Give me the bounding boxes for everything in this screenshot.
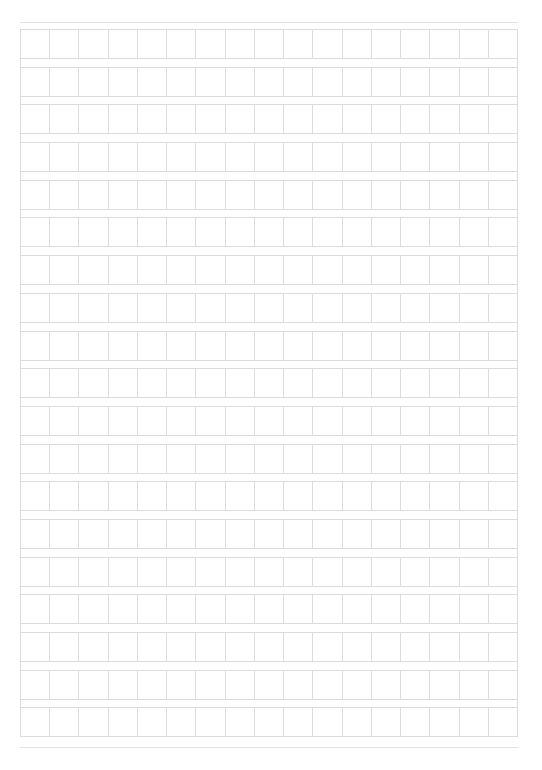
grid-cell	[109, 256, 138, 284]
grid-cell	[343, 369, 372, 397]
grid-cell	[401, 218, 430, 246]
grid-cell	[109, 520, 138, 548]
grid-cell	[138, 143, 167, 171]
grid-cell	[343, 633, 372, 661]
grid-cell	[226, 30, 255, 58]
grid-row	[20, 67, 518, 97]
grid-cell	[21, 332, 50, 360]
grid-cell	[226, 218, 255, 246]
grid-cell	[167, 332, 196, 360]
grid-cell	[489, 68, 517, 96]
grid-cell	[167, 708, 196, 736]
grid-cell	[138, 68, 167, 96]
grid-cell	[79, 369, 108, 397]
grid-cell	[372, 595, 401, 623]
grid-row	[20, 481, 518, 511]
grid-cell	[138, 595, 167, 623]
grid-row	[20, 594, 518, 624]
grid-cell	[372, 68, 401, 96]
grid-cell	[343, 671, 372, 699]
grid-cell	[430, 407, 459, 435]
grid-cell	[430, 181, 459, 209]
grid-cell	[138, 30, 167, 58]
grid-cell	[226, 482, 255, 510]
grid-cell	[313, 671, 342, 699]
grid-cell	[460, 520, 489, 548]
grid-cell	[255, 558, 284, 586]
row-gap	[20, 97, 518, 105]
grid-cell	[79, 407, 108, 435]
grid-cell	[21, 671, 50, 699]
grid-cell	[109, 633, 138, 661]
grid-cell	[489, 143, 517, 171]
grid-cell	[430, 143, 459, 171]
grid-cell	[167, 218, 196, 246]
grid-cell	[460, 445, 489, 473]
grid-cell	[79, 218, 108, 246]
grid-cell	[430, 68, 459, 96]
grid-cell	[401, 256, 430, 284]
grid-cell	[489, 30, 517, 58]
grid-cell	[196, 30, 225, 58]
grid-cell	[430, 294, 459, 322]
grid-cell	[343, 143, 372, 171]
grid-cell	[430, 445, 459, 473]
grid-cell	[372, 332, 401, 360]
grid-cell	[167, 407, 196, 435]
grid-cell	[79, 595, 108, 623]
grid-cell	[196, 332, 225, 360]
grid-cell	[196, 369, 225, 397]
grid-cell	[489, 294, 517, 322]
grid-cell	[284, 595, 313, 623]
grid-cell	[109, 558, 138, 586]
grid-cell	[21, 256, 50, 284]
grid-cell	[430, 558, 459, 586]
grid-cell	[138, 482, 167, 510]
grid-row	[20, 557, 518, 587]
grid-cell	[401, 143, 430, 171]
grid-cell	[79, 143, 108, 171]
grid-cell	[50, 633, 79, 661]
grid-cell	[372, 671, 401, 699]
grid-cell	[109, 445, 138, 473]
grid-cell	[284, 558, 313, 586]
grid-cell	[109, 332, 138, 360]
grid-cell	[50, 407, 79, 435]
grid-cell	[284, 256, 313, 284]
grid-cell	[167, 482, 196, 510]
grid-cell	[79, 30, 108, 58]
grid-cell	[255, 332, 284, 360]
grid-cell	[460, 68, 489, 96]
grid-cell	[343, 256, 372, 284]
grid-cell	[313, 633, 342, 661]
grid-cell	[284, 369, 313, 397]
grid-cell	[372, 520, 401, 548]
grid-cell	[255, 68, 284, 96]
grid-cell	[460, 105, 489, 133]
grid-cell	[284, 68, 313, 96]
grid-cell	[284, 671, 313, 699]
grid-cell	[226, 520, 255, 548]
grid-cell	[430, 256, 459, 284]
grid-cell	[372, 294, 401, 322]
grid-cell	[313, 332, 342, 360]
grid-cell	[401, 68, 430, 96]
grid-cell	[167, 105, 196, 133]
grid-cell	[167, 520, 196, 548]
grid-cell	[255, 407, 284, 435]
grid-cell	[196, 708, 225, 736]
grid-cell	[255, 30, 284, 58]
grid-cell	[196, 520, 225, 548]
grid-cell	[138, 520, 167, 548]
grid-cell	[226, 332, 255, 360]
grid-cell	[313, 218, 342, 246]
grid-cell	[255, 105, 284, 133]
grid-cell	[313, 482, 342, 510]
grid-cell	[167, 68, 196, 96]
grid-cell	[343, 181, 372, 209]
grid-cell	[21, 445, 50, 473]
grid-cell	[489, 708, 517, 736]
row-gap	[20, 700, 518, 708]
grid-cell	[343, 294, 372, 322]
grid-cell	[21, 105, 50, 133]
